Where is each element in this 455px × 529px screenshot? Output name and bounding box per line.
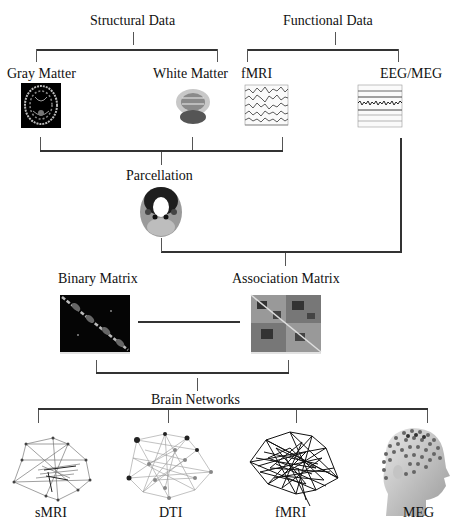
gray-matter-image	[21, 83, 61, 128]
dti-network-image	[125, 430, 213, 502]
brain-networks-label: Brain Networks	[151, 392, 240, 408]
connector	[38, 408, 428, 410]
structural-data-label: Structural Data	[90, 13, 175, 29]
parcellation-label: Parcellation	[126, 168, 193, 184]
meg-label: MEG	[403, 505, 434, 521]
connector	[247, 49, 248, 62]
connector	[161, 152, 162, 165]
connector	[282, 137, 283, 151]
association-matrix-label: Association Matrix	[232, 271, 340, 287]
connector	[133, 32, 134, 45]
connector	[36, 49, 37, 62]
white-matter-image	[172, 86, 214, 128]
connector	[335, 32, 336, 45]
gray-matter-label: Gray Matter	[7, 66, 76, 82]
connector	[138, 321, 240, 323]
dti-label: DTI	[159, 505, 182, 521]
fmri-label: fMRI	[241, 66, 272, 82]
connector	[285, 253, 286, 266]
connector	[217, 49, 218, 62]
connector	[161, 251, 402, 253]
association-matrix-image	[247, 293, 323, 357]
connector	[168, 410, 169, 423]
connector	[296, 410, 297, 423]
connector	[398, 49, 399, 62]
smri-network-image	[8, 430, 92, 502]
connector	[161, 238, 162, 252]
binary-matrix-image	[56, 293, 132, 357]
fmri-network-label: fMRI	[275, 505, 306, 521]
connector	[197, 378, 198, 391]
connector	[40, 137, 41, 151]
eeg-meg-label: EEG/MEG	[380, 66, 442, 82]
parcellation-image	[138, 185, 184, 238]
meg-head-image	[376, 424, 450, 516]
fmri-network-image	[246, 428, 342, 508]
smri-label: sMRI	[35, 505, 67, 521]
connector	[38, 410, 39, 423]
binary-matrix-label: Binary Matrix	[58, 271, 138, 287]
white-matter-label: White Matter	[153, 66, 228, 82]
connector	[96, 372, 289, 374]
connector	[247, 49, 399, 51]
connector	[427, 410, 428, 423]
functional-data-label: Functional Data	[283, 13, 373, 29]
eeg-meg-timeseries-image	[356, 84, 404, 129]
connector	[36, 49, 218, 51]
fmri-timeseries-image	[243, 84, 289, 129]
connector	[192, 137, 193, 151]
connector	[400, 138, 402, 252]
